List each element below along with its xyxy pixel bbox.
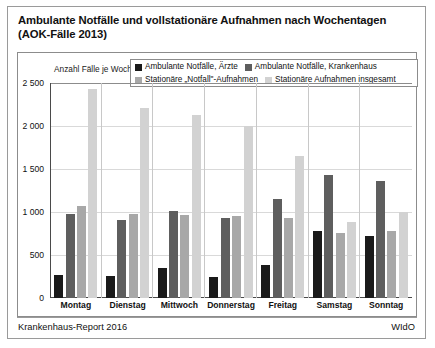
bar[interactable]	[324, 175, 333, 298]
y-axis-tick-label: 1 500	[22, 164, 44, 174]
legend-row-1: Ambulante Notfälle, Ärzte Ambulante Notf…	[135, 62, 414, 75]
x-axis-tick-label: Montag	[50, 300, 102, 316]
bar[interactable]	[221, 218, 230, 298]
bar[interactable]	[336, 233, 345, 298]
bar-group	[309, 83, 361, 298]
legend-label-0: Ambulante Notfälle, Ärzte	[145, 62, 238, 72]
x-axis-tick-label: Mittwoch	[153, 300, 205, 316]
bar[interactable]	[273, 199, 282, 298]
bar[interactable]	[387, 231, 396, 298]
bar[interactable]	[66, 214, 75, 298]
y-axis-labels: 05001 0001 5002 0002 500	[8, 83, 46, 298]
bar[interactable]	[106, 276, 115, 298]
x-axis-tick-label: Dienstag	[102, 300, 154, 316]
footer-source: Krankenhaus-Report 2016	[18, 322, 127, 332]
legend-label-1: Ambulante Notfälle, Krankenhaus	[255, 62, 377, 72]
bar-group	[205, 83, 257, 298]
bar-group	[257, 83, 309, 298]
x-axis-tick-label: Sonntag	[360, 300, 412, 316]
bar[interactable]	[261, 265, 270, 298]
y-axis-tick-label: 2 000	[22, 121, 44, 131]
bar-groups	[50, 83, 412, 298]
bar[interactable]	[209, 277, 218, 299]
bar[interactable]	[169, 211, 178, 298]
bar[interactable]	[376, 181, 385, 298]
bar[interactable]	[365, 236, 374, 298]
page-title: Ambulante Notfälle und vollstationäre Au…	[18, 13, 418, 42]
bar-group	[102, 83, 154, 298]
bar[interactable]	[295, 156, 304, 298]
y-axis-tick-label: 1 000	[22, 207, 44, 217]
bar[interactable]	[129, 214, 138, 298]
y-axis-tick-label: 500	[30, 250, 44, 260]
footer-divider	[17, 317, 417, 318]
bar[interactable]	[140, 108, 149, 298]
x-axis-labels: MontagDienstagMittwochDonnerstagFreitagS…	[50, 300, 412, 316]
bars-plot	[50, 83, 412, 298]
bar[interactable]	[180, 215, 189, 298]
chart-figure: Ambulante Notfälle und vollstationäre Au…	[7, 6, 426, 339]
bar[interactable]	[77, 206, 86, 298]
bar[interactable]	[347, 222, 356, 298]
bar[interactable]	[158, 268, 167, 298]
x-axis-tick-label: Freitag	[257, 300, 309, 316]
bar[interactable]	[192, 115, 201, 298]
x-axis-tick-label: Donnerstag	[205, 300, 257, 316]
bar-group	[153, 83, 205, 298]
bar-group	[360, 83, 412, 298]
bar[interactable]	[284, 218, 293, 298]
legend-swatch-1	[245, 64, 252, 71]
bar[interactable]	[313, 231, 322, 298]
legend-swatch-0	[135, 64, 142, 71]
y-axis-tick-label: 0	[39, 293, 44, 303]
legend-item-1[interactable]: Ambulante Notfälle, Krankenhaus	[245, 62, 377, 72]
bar[interactable]	[244, 126, 253, 298]
bar[interactable]	[232, 216, 241, 298]
footer-publisher: WIdO	[391, 322, 415, 332]
bar[interactable]	[399, 212, 408, 298]
y-axis-tick-label: 2 500	[22, 78, 44, 88]
bar-group	[50, 83, 102, 298]
legend-item-0[interactable]: Ambulante Notfälle, Ärzte	[135, 62, 238, 72]
bar[interactable]	[54, 275, 63, 298]
bar[interactable]	[117, 220, 126, 298]
x-axis-tick-label: Samstag	[309, 300, 361, 316]
bar[interactable]	[88, 89, 97, 298]
